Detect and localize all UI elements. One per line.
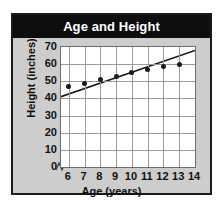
chart-figure: Age and Height Height (inches) 010203040… bbox=[11, 13, 212, 195]
data-point bbox=[98, 77, 103, 82]
gridline-vertical bbox=[100, 47, 101, 167]
y-axis-tick-label: 20 bbox=[45, 126, 57, 137]
chart-title-banner: Age and Height bbox=[13, 15, 210, 38]
y-axis-tick-labels: 010203040506070 bbox=[27, 46, 57, 168]
gridline-horizontal bbox=[61, 81, 195, 82]
gridline-vertical bbox=[148, 47, 149, 167]
y-axis-tick-label: 70 bbox=[45, 41, 57, 52]
x-axis-label: Age (years) bbox=[13, 185, 210, 197]
x-axis-tick-label: 13 bbox=[172, 171, 184, 182]
gridline-vertical bbox=[69, 47, 70, 167]
x-axis-tick-label: 14 bbox=[188, 171, 200, 182]
gridline-vertical bbox=[85, 47, 86, 167]
data-point bbox=[177, 62, 182, 67]
gridline-horizontal bbox=[61, 98, 195, 99]
y-axis-tick-label: 50 bbox=[45, 75, 57, 86]
y-axis-tick-label: 60 bbox=[45, 58, 57, 69]
plot-area bbox=[60, 46, 196, 168]
x-axis-tick-label: 11 bbox=[141, 171, 153, 182]
data-point bbox=[114, 74, 119, 79]
gridline-vertical bbox=[116, 47, 117, 167]
chart-panel: Height (inches) 010203040506070 67891011… bbox=[13, 38, 210, 193]
x-axis-tick-label: 10 bbox=[125, 171, 137, 182]
data-point bbox=[145, 67, 150, 72]
x-axis-tick-label: 9 bbox=[112, 171, 118, 182]
x-axis-tick-label: 7 bbox=[81, 171, 87, 182]
gridline-horizontal bbox=[61, 150, 195, 151]
gridline-horizontal bbox=[61, 64, 195, 65]
x-axis-tick-label: 8 bbox=[96, 171, 102, 182]
x-axis-tick-label: 12 bbox=[156, 171, 168, 182]
data-point bbox=[82, 81, 87, 86]
chart-title: Age and Height bbox=[63, 19, 160, 34]
y-axis-tick-label: 40 bbox=[45, 92, 57, 103]
x-axis-tick-label: 6 bbox=[65, 171, 71, 182]
x-axis-tick-labels: 67891011121314 bbox=[60, 171, 196, 185]
trend-line bbox=[61, 50, 195, 96]
y-axis-tick-label: 30 bbox=[45, 109, 57, 120]
gridline-vertical bbox=[132, 47, 133, 167]
gridline-horizontal bbox=[61, 116, 195, 117]
gridline-horizontal bbox=[61, 133, 195, 134]
y-axis-tick-label: 10 bbox=[45, 143, 57, 154]
